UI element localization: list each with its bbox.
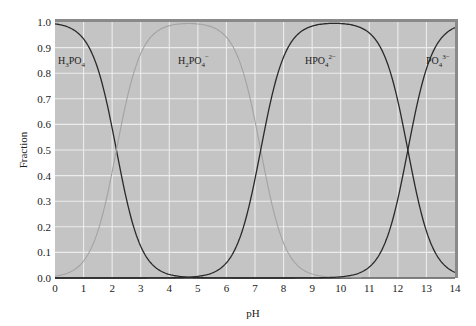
x-tick-label: 6 <box>224 282 230 294</box>
y-tick-label: 0.3 <box>37 195 51 207</box>
speciation-chart: 01234567891011121314 0.00.10.20.30.40.50… <box>0 0 476 326</box>
x-tick-label: 10 <box>335 282 347 294</box>
x-tick-label: 5 <box>195 282 201 294</box>
x-tick-label: 3 <box>138 282 144 294</box>
x-tick-label: 12 <box>392 282 403 294</box>
x-tick-label: 1 <box>81 282 87 294</box>
y-tick-label: 0.7 <box>37 93 51 105</box>
y-tick-label: 1.0 <box>37 16 51 28</box>
x-axis-ticks: 01234567891011121314 <box>52 282 461 294</box>
y-tick-label: 0.6 <box>37 118 51 130</box>
y-tick-label: 0.2 <box>37 221 51 233</box>
x-tick-label: 0 <box>52 282 58 294</box>
x-axis-title: pH <box>246 307 260 319</box>
x-tick-label: 9 <box>309 282 315 294</box>
frame-top <box>55 19 458 22</box>
x-tick-label: 2 <box>109 282 115 294</box>
y-tick-label: 0.9 <box>37 42 51 54</box>
y-axis-ticks: 0.00.10.20.30.40.50.60.70.80.91.0 <box>37 16 51 284</box>
y-axis-title: Fraction <box>17 131 29 168</box>
frame-right <box>455 19 458 278</box>
y-tick-label: 0.8 <box>37 67 51 79</box>
x-tick-label: 11 <box>364 282 375 294</box>
x-tick-label: 14 <box>450 282 462 294</box>
x-tick-label: 13 <box>421 282 433 294</box>
x-tick-label: 7 <box>252 282 258 294</box>
y-tick-label: 0.5 <box>37 144 51 156</box>
y-tick-label: 0.4 <box>37 170 51 182</box>
y-tick-label: 0.0 <box>37 272 51 284</box>
x-tick-label: 8 <box>281 282 287 294</box>
x-tick-label: 4 <box>167 282 173 294</box>
y-tick-label: 0.1 <box>37 246 51 258</box>
